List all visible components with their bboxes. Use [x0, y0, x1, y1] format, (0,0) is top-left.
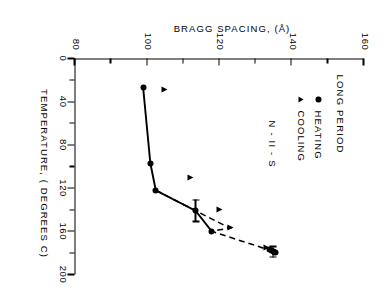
data-point-cooling-2 — [216, 206, 222, 212]
error-bar-0 — [194, 199, 195, 221]
data-point-cooling-3 — [227, 224, 233, 230]
data-point-cooling-4 — [263, 244, 269, 250]
data-point-heating-4 — [208, 228, 214, 234]
data-point-cooling-0 — [162, 86, 168, 92]
rotated-figure: 8010012014016004080120160200 BRAGG SPACI… — [0, 0, 387, 288]
error-cap-1-0 — [269, 245, 276, 246]
error-cap-0-1 — [192, 220, 199, 221]
data-point-heating-2 — [152, 187, 158, 193]
data-point-heating-0 — [140, 84, 146, 90]
error-bar-1 — [272, 246, 273, 257]
data-point-cooling-1 — [187, 174, 193, 180]
data-point-heating-1 — [147, 160, 153, 166]
error-cap-0-0 — [192, 199, 199, 200]
error-cap-1-1 — [269, 256, 276, 257]
plot-wrapper: 8010012014016004080120160200 BRAGG SPACI… — [0, 0, 387, 288]
data-markers — [0, 0, 387, 288]
figure-canvas: 8010012014016004080120160200 BRAGG SPACI… — [0, 0, 387, 288]
